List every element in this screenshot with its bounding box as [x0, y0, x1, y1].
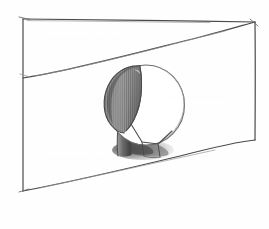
sketch-canvas: Hand-drawn perspective sketch of a slab …	[0, 0, 269, 229]
sketch-drawing	[0, 0, 269, 229]
